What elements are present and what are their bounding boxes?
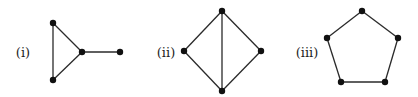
graph-vertex	[382, 79, 388, 85]
graph-edge	[53, 23, 82, 52]
graph-label-ii: (ii)	[157, 46, 175, 59]
graph-ii	[181, 8, 264, 94]
graph-figure: (i) (ii) (iii)	[0, 0, 418, 97]
graph-vertex	[117, 49, 123, 55]
graph-edge	[222, 51, 261, 91]
graph-i	[50, 20, 123, 83]
graphs-canvas	[0, 0, 418, 97]
graph-vertex	[181, 48, 187, 54]
graph-edge	[385, 38, 398, 82]
graph-label-i: (i)	[16, 46, 30, 59]
graph-vertex	[219, 88, 225, 94]
graph-vertex	[258, 48, 264, 54]
graph-edge	[327, 11, 362, 38]
graph-iii	[324, 8, 401, 85]
graph-edge	[362, 11, 398, 38]
graph-edge	[222, 11, 261, 51]
graph-vertex	[50, 77, 56, 83]
graph-vertex	[219, 8, 225, 14]
graph-edge	[184, 51, 222, 91]
graph-label-iii: (iii)	[296, 46, 319, 59]
graph-edge	[327, 38, 341, 82]
graph-vertex	[79, 49, 85, 55]
graph-vertex	[324, 35, 330, 41]
graph-edge	[53, 52, 82, 80]
graph-vertex	[395, 35, 401, 41]
graph-vertex	[359, 8, 365, 14]
graph-vertex	[338, 79, 344, 85]
graph-vertex	[50, 20, 56, 26]
graph-edge	[184, 11, 222, 51]
